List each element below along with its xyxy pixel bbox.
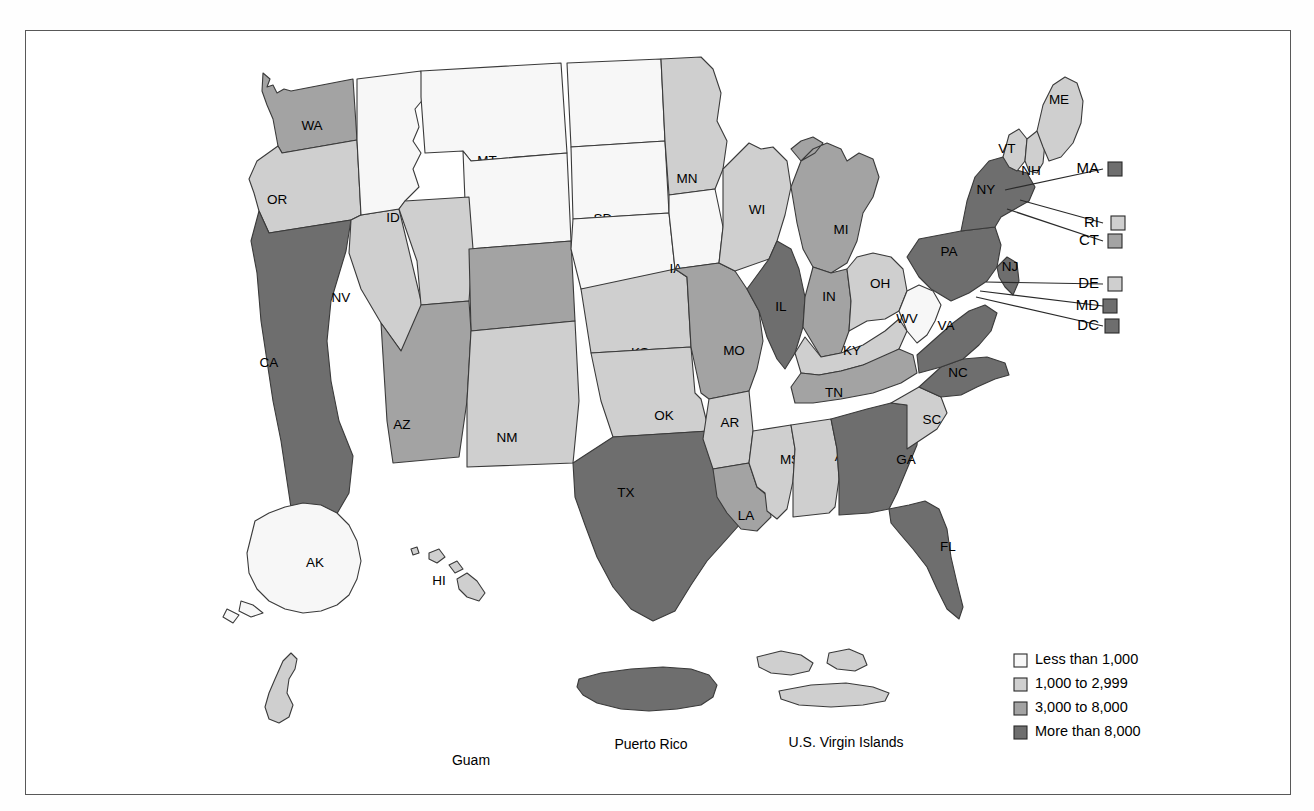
state-label-oh: OH <box>870 276 890 291</box>
state-label-wi: WI <box>749 202 766 217</box>
territories-group: GuamPuerto RicoU.S. Virgin Islands <box>265 649 903 768</box>
state-label-ak: AK <box>306 555 324 570</box>
state-label-sc: SC <box>923 412 942 427</box>
state-mi[interactable] <box>791 137 879 273</box>
state-label-ca: CA <box>260 355 279 370</box>
state-co[interactable] <box>469 241 575 331</box>
territory-label-pr: Puerto Rico <box>614 736 687 752</box>
state-label-or: OR <box>267 192 288 207</box>
state-label-mi: MI <box>834 222 849 237</box>
territory-gu[interactable] <box>265 653 297 723</box>
state-label-ny: NY <box>977 182 996 197</box>
legend-label-2: 1,000 to 2,999 <box>1035 675 1128 691</box>
state-ca[interactable] <box>251 211 353 549</box>
callout-swatch-ct <box>1108 234 1122 248</box>
callout-label-md: MD <box>1076 296 1099 313</box>
us-choropleth-map: WAORCANVIDMTWYUTCOAZNMNDSDNEKSOKTXMNIAMO… <box>26 31 1290 794</box>
map-frame: WAORCANVIDMTWYUTCOAZNMNDSDNEKSOKTXMNIAMO… <box>25 30 1291 795</box>
territory-vi[interactable] <box>757 649 889 707</box>
state-nd[interactable] <box>567 59 665 147</box>
state-id[interactable] <box>357 71 425 215</box>
state-mt[interactable] <box>421 63 567 161</box>
state-al[interactable] <box>791 419 839 517</box>
state-ak[interactable] <box>223 503 361 623</box>
callout-swatch-md <box>1103 299 1117 313</box>
state-nm[interactable] <box>467 321 579 467</box>
territory-pr[interactable] <box>577 667 717 711</box>
state-label-ky: KY <box>843 343 861 358</box>
state-ar[interactable] <box>703 391 753 469</box>
territory-label-gu: Guam <box>452 752 490 768</box>
legend-swatch-2 <box>1014 678 1027 691</box>
callout-swatch-ri <box>1111 216 1125 230</box>
state-label-nc: NC <box>948 365 968 380</box>
state-label-ok: OK <box>654 408 674 423</box>
state-label-az: AZ <box>393 417 410 432</box>
state-label-nj: NJ <box>1002 259 1019 274</box>
state-sd[interactable] <box>571 141 669 219</box>
callout-label-ma: MA <box>1077 159 1100 176</box>
legend-swatch-1 <box>1014 654 1027 667</box>
state-wy[interactable] <box>463 151 571 249</box>
callout-label-ri: RI <box>1084 213 1099 230</box>
state-label-tn: TN <box>825 385 843 400</box>
state-ia[interactable] <box>669 189 723 269</box>
state-label-ga: GA <box>896 452 916 467</box>
map-legend: Less than 1,0001,000 to 2,9993,000 to 8,… <box>1014 651 1141 739</box>
state-hi[interactable] <box>411 547 485 601</box>
state-label-nv: NV <box>332 290 351 305</box>
legend-swatch-4 <box>1014 726 1027 739</box>
state-or[interactable] <box>249 140 361 233</box>
territory-label-vi: U.S. Virgin Islands <box>789 734 904 750</box>
callout-label-dc: DC <box>1077 316 1099 333</box>
figure-page: WAORCANVIDMTWYUTCOAZNMNDSDNEKSOKTXMNIAMO… <box>0 0 1314 811</box>
legend-label-3: 3,000 to 8,000 <box>1035 699 1128 715</box>
legend-label-4: More than 8,000 <box>1035 723 1141 739</box>
callout-label-de: DE <box>1078 274 1099 291</box>
state-label-nm: NM <box>497 430 518 445</box>
state-label-in: IN <box>822 289 836 304</box>
state-label-la: LA <box>738 508 755 523</box>
state-label-me: ME <box>1049 92 1069 107</box>
states-group: WAORCANVIDMTWYUTCOAZNMNDSDNEKSOKTXMNIAMO… <box>223 57 1083 623</box>
legend-swatch-3 <box>1014 702 1027 715</box>
callout-swatch-de <box>1108 277 1122 291</box>
state-label-pa: PA <box>940 244 957 259</box>
state-label-id: ID <box>386 210 400 225</box>
state-label-ar: AR <box>721 415 740 430</box>
callout-swatch-ma <box>1108 162 1122 176</box>
state-label-il: IL <box>775 299 787 314</box>
state-wa[interactable] <box>262 73 357 153</box>
state-ok[interactable] <box>591 347 709 437</box>
state-label-tx: TX <box>617 485 634 500</box>
state-label-mn: MN <box>677 171 698 186</box>
state-label-vt: VT <box>998 141 1015 156</box>
state-label-nh: NH <box>1021 163 1041 178</box>
state-label-fl: FL <box>940 539 956 554</box>
callout-label-ct: CT <box>1079 231 1099 248</box>
state-label-hi: HI <box>432 573 446 588</box>
legend-label-1: Less than 1,000 <box>1035 651 1138 667</box>
state-label-va: VA <box>937 318 954 333</box>
callout-swatch-dc <box>1105 319 1119 333</box>
state-me[interactable] <box>1037 77 1083 161</box>
state-label-wv: WV <box>896 311 918 326</box>
state-label-mo: MO <box>723 343 745 358</box>
state-label-wa: WA <box>301 118 322 133</box>
state-fl[interactable] <box>889 501 963 619</box>
